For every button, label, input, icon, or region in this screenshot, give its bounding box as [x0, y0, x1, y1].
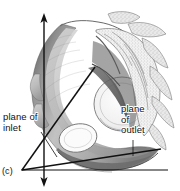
plane-of-inlet-label: plane of inlet [3, 112, 38, 133]
pelvis-illustration [0, 0, 180, 191]
plane-of-outlet-label: plane of outlet [121, 104, 145, 136]
panel-label: (c) [2, 166, 13, 177]
pelvis-planes-figure: plane of inlet plane of outlet (c) [0, 0, 180, 191]
